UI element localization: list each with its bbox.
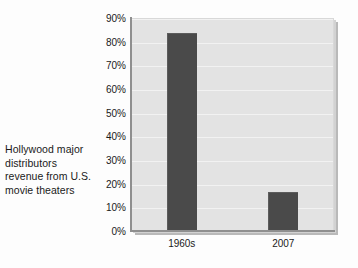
y-axis-tick-label: 70% (90, 60, 126, 71)
y-axis-tick-label: 90% (90, 13, 126, 24)
y-axis-tick-label: 10% (90, 202, 126, 213)
y-axis-tick-label: 20% (90, 178, 126, 189)
gridline (131, 19, 333, 20)
y-axis-tick-labels: 0%10%20%30%40%50%60%70%80%90% (88, 0, 126, 268)
y-axis-line (130, 17, 132, 232)
gridline (131, 90, 333, 91)
gridline (131, 66, 333, 67)
bar-1960s (167, 33, 197, 231)
gridline (131, 161, 333, 162)
gridline (131, 114, 333, 115)
bar-2007 (268, 192, 298, 231)
y-axis-tick-label: 50% (90, 107, 126, 118)
y-axis-tick-label: 60% (90, 84, 126, 95)
y-axis-tick-label: 0% (90, 226, 126, 237)
y-axis-tick-label: 40% (90, 131, 126, 142)
x-axis-tick-label: 2007 (272, 238, 294, 249)
chart-figure: Hollywood major distributors revenue fro… (0, 0, 358, 268)
gridline (131, 137, 333, 138)
y-axis-tick-label: 30% (90, 155, 126, 166)
gridline (131, 208, 333, 209)
gridline (131, 185, 333, 186)
gridline (131, 43, 333, 44)
x-axis-line (130, 230, 335, 232)
y-axis-tick-label: 80% (90, 36, 126, 47)
plot-area (131, 18, 334, 231)
x-axis-tick-label: 1960s (168, 238, 195, 249)
